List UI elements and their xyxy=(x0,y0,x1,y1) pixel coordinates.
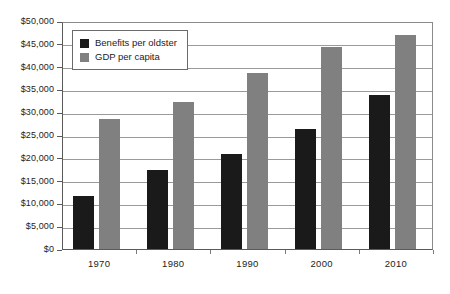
bar-2010-series-1 xyxy=(395,35,416,249)
x-tick-mark xyxy=(359,250,360,254)
legend-swatch-icon xyxy=(80,39,89,48)
x-tick-label-1970: 1970 xyxy=(62,259,136,269)
bar-1980-series-1 xyxy=(173,102,194,249)
x-tick-mark xyxy=(433,250,434,254)
bar-1970-series-0 xyxy=(73,196,94,249)
y-tick-label: $50,000 xyxy=(0,17,54,26)
bar-2000-series-0 xyxy=(295,129,316,249)
legend-item-1: GDP per capita xyxy=(80,50,177,64)
bar-2010-series-0 xyxy=(369,95,390,249)
x-tick-label-2010: 2010 xyxy=(359,259,433,269)
legend-item-0: Benefits per oldster xyxy=(80,36,177,50)
legend-swatch-icon xyxy=(80,53,89,62)
chart-legend: Benefits per oldsterGDP per capita xyxy=(72,30,188,70)
y-tick-label: $25,000 xyxy=(0,131,54,140)
bar-1970-series-1 xyxy=(99,119,120,249)
x-tick-mark xyxy=(285,250,286,254)
bar-1990-series-1 xyxy=(247,73,268,249)
x-tick-mark xyxy=(210,250,211,254)
bar-chart: $0$5,000$10,000$15,000$20,000$25,000$30,… xyxy=(0,0,450,294)
y-tick-label: $20,000 xyxy=(0,154,54,163)
x-tick-label-1980: 1980 xyxy=(136,259,210,269)
bar-2000-series-1 xyxy=(321,47,342,249)
y-tick-label: $35,000 xyxy=(0,85,54,94)
x-tick-label-1990: 1990 xyxy=(210,259,284,269)
bar-1980-series-0 xyxy=(147,170,168,249)
y-tick-label: $45,000 xyxy=(0,40,54,49)
legend-label: GDP per capita xyxy=(95,52,160,62)
y-tick-label: $5,000 xyxy=(0,222,54,231)
bar-1990-series-0 xyxy=(221,154,242,249)
y-tick-label: $30,000 xyxy=(0,108,54,117)
x-tick-mark xyxy=(136,250,137,254)
y-tick-label: $40,000 xyxy=(0,63,54,72)
legend-label: Benefits per oldster xyxy=(95,38,177,48)
y-tick-label: $10,000 xyxy=(0,199,54,208)
y-tick-label: $0 xyxy=(0,245,54,254)
y-tick-label: $15,000 xyxy=(0,177,54,186)
x-tick-label-2000: 2000 xyxy=(285,259,359,269)
